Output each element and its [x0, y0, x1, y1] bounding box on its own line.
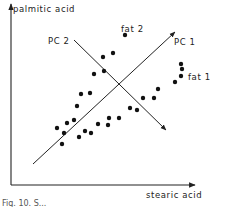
data-point: [89, 131, 93, 135]
figure-caption: Fig. 10. S...: [2, 199, 46, 207]
scatter-chart: palmitic acid stearic acid PC 1 PC 2 fat…: [0, 0, 227, 207]
fat2-label: fat 2: [121, 24, 144, 34]
x-axis-label: stearic acid: [146, 190, 202, 200]
data-point: [83, 129, 87, 133]
data-point: [92, 72, 96, 76]
pc2-label: PC 2: [48, 36, 70, 46]
y-axis-label: palmitic acid: [13, 4, 75, 14]
data-point: [75, 104, 79, 108]
pc1-label: PC 1: [174, 37, 196, 47]
data-point: [156, 87, 160, 91]
data-point: [77, 135, 81, 139]
data-point: [60, 142, 64, 146]
data-point: [180, 67, 184, 71]
data-point: [173, 80, 177, 84]
data-point: [152, 96, 156, 100]
data-point: [62, 131, 66, 135]
data-point: [135, 108, 139, 112]
data-point: [96, 122, 100, 126]
data-point: [88, 91, 92, 95]
data-point: [141, 96, 145, 100]
fat1-label: fat 1: [188, 72, 211, 82]
data-point: [107, 116, 111, 120]
data-point: [179, 74, 183, 78]
data-point: [79, 92, 83, 96]
data-point: [106, 123, 110, 127]
data-point: [117, 116, 121, 120]
data-point: [72, 118, 76, 122]
data-point: [179, 62, 183, 66]
data-point: [111, 51, 115, 55]
data-point: [102, 69, 106, 73]
data-point: [55, 126, 59, 130]
data-point: [123, 33, 127, 37]
data-point: [128, 106, 132, 110]
data-point: [65, 121, 69, 125]
data-point: [101, 55, 105, 59]
